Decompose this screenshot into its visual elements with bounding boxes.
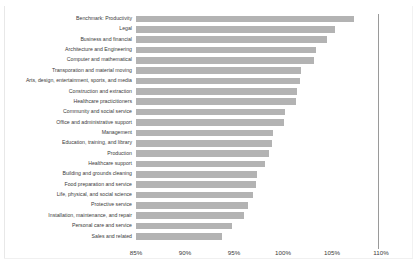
bar-row: Community and social service [136, 107, 381, 117]
bar [136, 130, 273, 137]
bar [136, 161, 265, 168]
bar [136, 202, 248, 209]
category-label: Installation, maintenance, and repair [48, 210, 132, 220]
bar-row: Benchmark: Productivity [136, 14, 381, 24]
bar [136, 181, 256, 188]
bar [136, 223, 232, 230]
bar-row: Management [136, 128, 381, 138]
category-label: Healthcare support [88, 158, 132, 168]
bar-row: Legal [136, 24, 381, 34]
bar [136, 88, 297, 95]
category-label: Community and social service [63, 106, 132, 116]
bar [136, 212, 244, 219]
category-label: Sales and related [92, 231, 132, 241]
plot-area: Benchmark: ProductivityLegalBusiness and… [136, 14, 381, 242]
bar [136, 192, 253, 199]
category-label: Office and administrative support [56, 117, 132, 127]
category-label: Transporation and material moving [52, 65, 132, 75]
bar-rows: Benchmark: ProductivityLegalBusiness and… [136, 14, 381, 242]
bar [136, 98, 296, 105]
bar [136, 119, 284, 126]
category-label: Healthcare practicitioners [73, 96, 132, 106]
category-label: Arts, design, entertainment, sports, and… [26, 75, 132, 85]
bar-row: Production [136, 149, 381, 159]
bar [136, 150, 269, 157]
category-label: Business and financial [80, 34, 132, 44]
category-label: Protective service [91, 199, 132, 209]
x-axis-tick-label: 85% [130, 249, 142, 256]
bar-row: Office and administrative support [136, 118, 381, 128]
bar-row: Protective service [136, 200, 381, 210]
bar [136, 47, 316, 54]
bar-row: Building and grounds cleaning [136, 169, 381, 179]
bar [136, 36, 327, 43]
bar-row: Construction and extraction [136, 87, 381, 97]
bar-row: Life, physical, and social science [136, 190, 381, 200]
category-label: Management [102, 127, 132, 137]
category-label: Legal [119, 23, 132, 33]
x-axis-tick-label: 100% [275, 249, 291, 256]
bar [136, 233, 222, 240]
bar-row: Food preparation and service [136, 180, 381, 190]
category-label: Architecture and Engineering [65, 44, 132, 54]
bar [136, 57, 314, 64]
bar [136, 67, 301, 74]
bar [136, 78, 300, 85]
x-axis-tick-label: 105% [324, 249, 340, 256]
bar-row: Transporation and material moving [136, 66, 381, 76]
productivity-benchmark-bar-chart: Benchmark: ProductivityLegalBusiness and… [0, 0, 417, 266]
frame-left-border [4, 6, 5, 258]
category-label: Construction and extraction [69, 86, 132, 96]
frame-right-border [412, 6, 413, 258]
bar-row: Healthcare support [136, 159, 381, 169]
category-label: Food preparation and service [65, 179, 132, 189]
category-label: Computer and mathematical [67, 54, 132, 64]
bar-row: Business and financial [136, 35, 381, 45]
category-label: Building and grounds cleaning [62, 168, 132, 178]
bar [136, 171, 257, 178]
bar-row: Personal care and service [136, 221, 381, 231]
category-label: Benchmark: Productivity [76, 13, 132, 23]
bar-row: Arts, design, entertainment, sports, and… [136, 76, 381, 86]
x-axis-tick-label: 90% [179, 249, 191, 256]
bar [136, 109, 285, 116]
bar-row: Education, training, and library [136, 138, 381, 148]
bar [136, 26, 335, 33]
category-label: Life, physical, and social science [57, 189, 132, 199]
bar-row: Architecture and Engineering [136, 45, 381, 55]
bar-row: Sales and related [136, 232, 381, 242]
x-axis-tick-label: 110% [373, 249, 388, 256]
bar-row: Installation, maintenance, and repair [136, 211, 381, 221]
x-axis-tick-label: 95% [228, 249, 240, 256]
category-label: Personal care and service [72, 220, 132, 230]
x-axis: 85%90%95%100%105%110% [136, 249, 381, 263]
category-label: Production [107, 148, 132, 158]
category-label: Education, training, and library [62, 137, 132, 147]
bar-row: Healthcare practicitioners [136, 97, 381, 107]
bar [136, 140, 272, 147]
bar [136, 16, 354, 23]
bar-row: Computer and mathematical [136, 55, 381, 65]
